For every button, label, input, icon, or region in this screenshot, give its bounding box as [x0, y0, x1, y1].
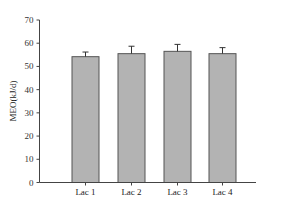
- bar-chart: 010203040506070 Lac 1Lac 2Lac 3Lac 4 MEO…: [0, 0, 281, 203]
- y-tick-label: 30: [25, 108, 35, 118]
- y-tick-label: 0: [29, 178, 34, 188]
- y-tick-label: 50: [25, 61, 35, 71]
- y-tick-label: 70: [25, 15, 35, 25]
- bar: [72, 57, 99, 183]
- y-axis-label: MEO(kJ/d): [8, 81, 18, 122]
- bar: [209, 54, 236, 183]
- y-tick-label: 20: [25, 131, 35, 141]
- x-tick-label: Lac 2: [121, 187, 141, 197]
- x-tick-label: Lac 1: [75, 187, 95, 197]
- bar: [164, 51, 191, 182]
- y-tick-label: 40: [25, 85, 35, 95]
- x-tick-label: Lac 4: [212, 187, 233, 197]
- x-tick-label: Lac 3: [167, 187, 188, 197]
- y-axis: 010203040506070: [25, 15, 40, 188]
- x-axis: Lac 1Lac 2Lac 3Lac 4: [40, 183, 257, 197]
- bar: [118, 54, 145, 183]
- bars: [72, 44, 236, 182]
- y-tick-label: 60: [25, 38, 35, 48]
- y-tick-label: 10: [25, 154, 35, 164]
